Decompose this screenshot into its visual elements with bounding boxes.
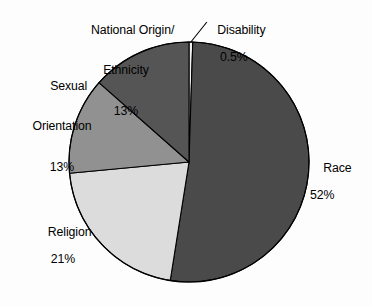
pie-chart: National Origin/ Ethnicity 13% Disabilit… [0,0,372,306]
slice-label-national-origin-line1: National Origin/ [91,23,174,37]
slice-label-disability-line1: Disability [217,23,265,37]
slice-label-sexual-orientation-line2: Orientation [10,120,114,134]
slice-label-disability: Disability 0.5% [204,10,296,92]
slice-value-disability: 0.5% [204,51,296,65]
slice-value-sexual-orientation: 13% [10,161,114,175]
slice-label-race-line1: Race [323,161,351,175]
slice-label-sexual-orientation: Sexual Orientation 13% [10,66,114,202]
slice-value-race: 52% [310,189,368,203]
slice-value-religion: 21% [14,253,112,267]
slice-label-religion: Religion 21% [14,212,112,294]
slice-label-race: Race 52% [310,148,368,230]
slice-label-religion-line1: Religion [48,225,92,239]
slice-label-sexual-orientation-line1: Sexual [50,79,87,93]
